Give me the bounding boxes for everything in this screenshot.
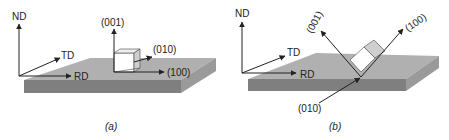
td-label: TD xyxy=(287,47,300,58)
caption-a: (a) xyxy=(105,121,117,132)
axis-010-label: (010) xyxy=(298,103,321,114)
axis-100-label: (100) xyxy=(403,11,428,33)
caption-b: (b) xyxy=(329,121,341,132)
nd-label: ND xyxy=(235,8,249,19)
crystal-orientation-figure: ND TD RD (001) (010) (100) (a) xyxy=(0,0,449,140)
td-label: TD xyxy=(61,50,74,61)
rd-label: RD xyxy=(300,69,314,80)
rd-label: RD xyxy=(74,71,88,82)
sample-plate xyxy=(248,53,439,91)
axis-001-label: (001) xyxy=(101,17,124,28)
panel-a: ND TD RD (001) (010) (100) (a) xyxy=(12,11,216,132)
nd-label: ND xyxy=(12,11,26,22)
axis-100-label: (100) xyxy=(167,67,190,78)
crystal-cube xyxy=(114,49,140,72)
panel-b: ND TD RD (001) (100) (010) (b) xyxy=(235,8,439,132)
axis-010-label: (010) xyxy=(153,44,176,55)
